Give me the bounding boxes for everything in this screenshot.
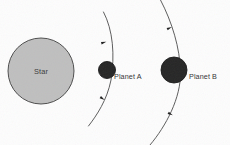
planet-b-body-group: Planet B [161,57,217,83]
diagram-canvas: Star Planet A Planet B [0,0,230,145]
planet-a-body-group: Planet A [99,62,142,82]
planet-b-label: Planet B [189,72,217,81]
planet-a-label: Planet A [114,72,142,81]
star-body-group: Star [8,38,74,104]
planet-b-circle [161,57,187,83]
orbit-diagram: Star Planet A Planet B [0,0,230,145]
orbit-direction-arrow [101,41,107,45]
planet-a-circle [99,62,116,79]
star-label: Star [34,67,48,76]
